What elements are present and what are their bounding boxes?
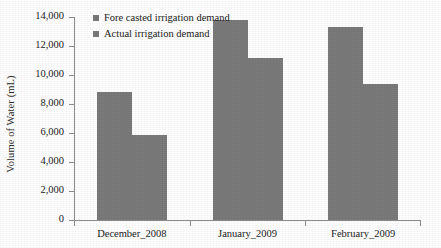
y-axis-tick-mark	[69, 46, 74, 47]
y-axis-tick-mark	[69, 17, 74, 18]
y-axis-tick-label: 8,000	[40, 97, 64, 108]
y-axis-tick-label: 10,000	[35, 68, 64, 79]
y-axis-tick: 6,000	[0, 133, 74, 134]
y-axis-tick: 4,000	[0, 162, 74, 163]
chart-legend: Fore casted irrigation demandActual irri…	[93, 11, 230, 40]
y-axis-tick-label: 2,000	[40, 184, 64, 195]
x-axis-category-label: January_2009	[218, 228, 277, 239]
x-axis-tick-mark	[74, 221, 75, 226]
y-axis-tick-label: 6,000	[40, 126, 64, 137]
x-axis-tick-mark	[420, 221, 421, 226]
y-axis-tick: 8,000	[0, 104, 74, 105]
chart-figure: Volume of Water (mL) 02,0004,0006,0008,0…	[0, 0, 441, 248]
y-axis-tick-label: 0	[59, 213, 64, 224]
y-axis-tick: 14,000	[0, 17, 74, 18]
y-axis-tick-label: 14,000	[35, 10, 64, 21]
x-axis-tick-mark	[305, 221, 306, 226]
x-axis-category-label: February_2009	[331, 228, 395, 239]
legend-item-label: Fore casted irrigation demand	[104, 12, 230, 23]
legend-item-label: Actual irrigation demand	[104, 28, 210, 39]
y-axis-line	[74, 17, 75, 221]
legend-swatch-icon	[93, 31, 99, 37]
bar	[213, 20, 248, 220]
y-axis-tick-mark	[69, 162, 74, 163]
y-axis-tick-label: 4,000	[40, 155, 64, 166]
y-axis-tick-mark	[69, 104, 74, 105]
legend-item: Fore casted irrigation demand	[93, 11, 230, 24]
bar	[363, 84, 398, 220]
y-axis-tick-mark	[69, 191, 74, 192]
x-axis-tick-mark	[190, 221, 191, 226]
bar	[328, 27, 363, 220]
y-axis-tick-label: 12,000	[35, 39, 64, 50]
y-axis-tick: 12,000	[0, 46, 74, 47]
y-axis-tick: 10,000	[0, 75, 74, 76]
y-axis-tick: 0	[0, 220, 74, 221]
y-axis-tick-mark	[69, 75, 74, 76]
y-axis-title: Volume of Water (mL)	[0, 0, 20, 248]
legend-item: Actual irrigation demand	[93, 27, 230, 40]
bar	[97, 92, 132, 220]
bar	[132, 135, 167, 220]
x-axis-line	[74, 220, 421, 221]
bar	[248, 58, 283, 220]
plot-area: 02,0004,0006,0008,00010,00012,00014,000 …	[74, 17, 421, 221]
y-axis-tick-mark	[69, 133, 74, 134]
legend-swatch-icon	[93, 15, 99, 21]
x-axis-category-label: December_2008	[97, 228, 166, 239]
y-axis-tick: 2,000	[0, 191, 74, 192]
